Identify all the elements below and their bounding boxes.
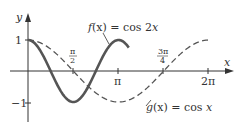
x-tick-label-pi-half: π 2	[69, 47, 77, 65]
x-tick-label-pi: π	[114, 75, 121, 88]
svg-text:3π: 3π	[158, 47, 168, 56]
f-function-label: f(x) = cos 2x	[87, 21, 159, 34]
cosine-chart: y x 1 −1 π 2 π 3π 4 2π f(x) = cos 2x g(x…	[0, 0, 240, 128]
svg-text:4: 4	[160, 56, 165, 65]
x-tick-label-3pi-over-4: 3π 4	[157, 47, 168, 65]
y-tick-label-neg1: −1	[11, 97, 27, 110]
y-axis-arrow-icon	[25, 13, 31, 22]
svg-text:π: π	[70, 47, 75, 56]
svg-text:2: 2	[70, 56, 75, 65]
x-tick-label-2pi: 2π	[201, 75, 215, 88]
x-axis-label: x	[224, 56, 231, 69]
g-function-label: g(x) = cos x	[146, 101, 213, 114]
y-axis-label: y	[15, 11, 23, 24]
y-tick-label-1: 1	[15, 34, 22, 47]
f-label-pointer	[103, 33, 109, 44]
